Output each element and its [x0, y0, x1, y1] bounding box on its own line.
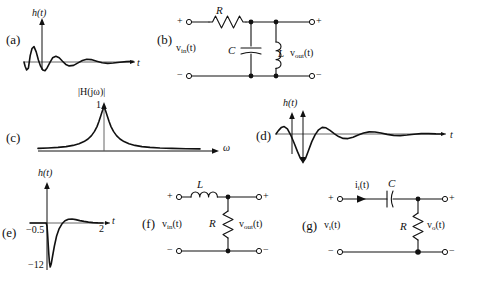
panel-b: (b) R C L + − + − vin(t) vout(t) [155, 0, 335, 92]
panel-g-junction-top [416, 197, 421, 202]
panel-f-junction-bottom [226, 249, 231, 254]
panel-d: (d) h(t) t [250, 92, 480, 176]
panel-a: (a) h(t) t [0, 0, 155, 92]
panel-b-junction-top-left [249, 20, 254, 25]
panel-f: (f) L R + − + − vin(t) vout(t) [125, 168, 290, 282]
panel-g-current-arrow [357, 195, 366, 203]
panel-b-terminal-in-minus [186, 73, 191, 78]
panel-b-junction-top-right [274, 20, 279, 25]
panel-f-terminal-out-plus [256, 194, 261, 199]
panel-b-resistor-symbol [209, 16, 246, 28]
panel-b-circuit [155, 0, 335, 92]
panel-f-terminal-out-minus [256, 248, 261, 253]
panel-g-terminal-out-minus [442, 249, 447, 254]
panel-g-terminal-in-plus [337, 196, 342, 201]
panel-f-inductor-symbol [191, 192, 217, 197]
panel-g-terminal-in-minus [337, 249, 342, 254]
panel-c: (c) |H(jω)| 1 ω [0, 86, 250, 170]
panel-g: (g) C R + − + − ii(t) vi(t) vo(t) [290, 168, 480, 282]
panel-e-plot [0, 168, 125, 282]
panel-f-circuit [125, 168, 290, 282]
panel-b-inductor-symbol [276, 42, 281, 68]
panel-d-plot [250, 92, 480, 176]
panel-b-terminal-out-plus [309, 19, 314, 24]
panel-b-terminal-in-plus [186, 19, 191, 24]
panel-g-junction-bottom [415, 249, 421, 255]
panel-b-terminal-out-minus [309, 73, 314, 78]
panel-g-circuit [290, 168, 480, 282]
panel-b-junction-bottom-right [274, 74, 279, 79]
panel-f-junction-top [226, 195, 231, 200]
panel-g-terminal-out-plus [442, 196, 447, 201]
panel-c-plot [0, 86, 250, 170]
panel-f-resistor-symbol [223, 211, 233, 238]
panel-g-resistor-symbol [413, 213, 423, 240]
panel-f-terminal-in-plus [176, 194, 181, 199]
panel-e: (e) h(t) t −0.5 2 −12 [0, 168, 125, 282]
panel-a-plot [0, 0, 155, 92]
panel-b-junction-bottom-left [249, 74, 254, 79]
panel-f-terminal-in-minus [176, 248, 181, 253]
